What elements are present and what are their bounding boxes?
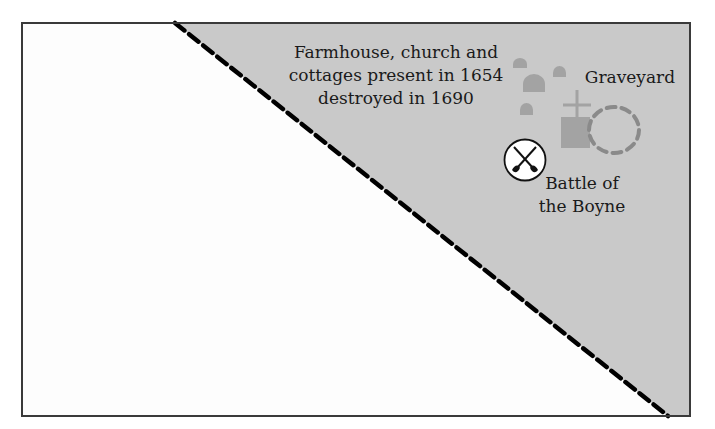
crossed-swords-icon bbox=[505, 140, 546, 181]
settlement-label-line2: cottages present in 1654 bbox=[289, 65, 504, 85]
map-diagram: Farmhouse, church and cottages present i… bbox=[0, 0, 715, 429]
graveyard-label: Graveyard bbox=[585, 67, 675, 87]
settlement-label-line1: Farmhouse, church and bbox=[294, 42, 498, 62]
battle-label-line2: the Boyne bbox=[539, 196, 626, 216]
battle-label-line1: Battle of bbox=[545, 173, 620, 193]
church-building bbox=[561, 117, 590, 148]
settlement-label-line3: destroyed in 1690 bbox=[318, 88, 474, 108]
